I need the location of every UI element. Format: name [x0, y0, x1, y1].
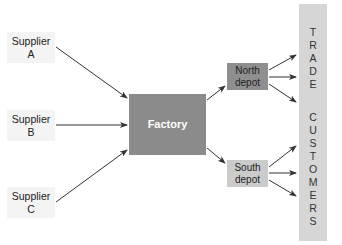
south-depot-node: South depot: [227, 160, 268, 187]
letter: E: [309, 189, 316, 202]
letter: T: [310, 150, 316, 163]
arrow-supplier-a-factory: [56, 47, 127, 98]
south-depot-label-2: depot: [234, 174, 260, 186]
letter: U: [309, 124, 317, 137]
letter: E: [309, 78, 316, 91]
supplier-b-node: Supplier B: [7, 110, 55, 141]
supplier-c-label-2: C: [12, 203, 51, 216]
supplier-b-label-2: B: [12, 126, 51, 139]
letter: D: [309, 65, 317, 78]
arrow-factory-north: [207, 86, 225, 100]
supplier-a-label-1: Supplier: [12, 35, 51, 48]
arrow-south-cust-1: [269, 146, 296, 167]
letter: S: [309, 137, 316, 150]
letter: S: [309, 215, 316, 228]
letter: R: [309, 39, 317, 52]
letter: R: [309, 202, 317, 215]
letter: C: [309, 111, 317, 124]
letter: T: [310, 26, 316, 39]
north-depot-node: North depot: [227, 63, 268, 90]
factory-label: Factory: [148, 118, 188, 131]
letter: A: [309, 52, 316, 65]
supplier-a-label-2: A: [12, 48, 51, 61]
supplier-a-node: Supplier A: [7, 32, 55, 63]
letter: M: [309, 176, 318, 189]
letter: O: [309, 163, 317, 176]
arrow-factory-south: [207, 148, 225, 163]
north-depot-label-2: depot: [235, 77, 260, 89]
factory-node: Factory: [129, 94, 206, 155]
south-depot-label-1: South: [234, 162, 260, 174]
supplier-c-node: Supplier C: [7, 187, 55, 218]
trade-customers-bar: T R A D E C U S T O M E R S: [299, 4, 327, 241]
arrow-north-cust-3: [269, 84, 296, 102]
north-depot-label-1: North: [235, 65, 260, 77]
arrow-supplier-c-factory: [56, 150, 127, 202]
supplier-b-label-1: Supplier: [12, 113, 51, 126]
arrow-south-cust-3: [269, 180, 296, 196]
supplier-c-label-1: Supplier: [12, 190, 51, 203]
arrow-north-cust-1: [269, 55, 296, 70]
